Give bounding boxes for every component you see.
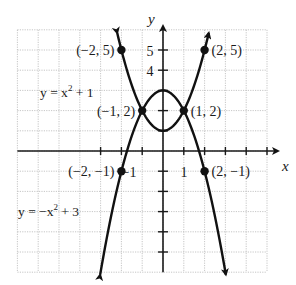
point-marker: [138, 106, 146, 114]
point-label: (2, −1): [212, 164, 251, 180]
point-label: (−2, −1): [68, 164, 114, 180]
y-tick-label-4: 4: [147, 64, 154, 79]
y-tick-label-5: 5: [147, 44, 154, 59]
equation-label-upward: y = x2 + 1: [40, 83, 94, 100]
point-marker: [117, 167, 125, 175]
x-axis-label: x: [281, 158, 289, 174]
point-label: (1, 2): [191, 104, 222, 120]
equation-label-downward: y = −x2 + 3: [18, 202, 79, 219]
labeled-points: (−2, 5)(2, 5)(−1, 2)(1, 2)(−2, −1)(2, −1…: [68, 43, 250, 180]
graph-figure: x y −1 1 5 4 y = x2 + 1 y = −x2 + 3 (−2,…: [0, 0, 296, 285]
point-marker: [117, 46, 125, 54]
x-tick-label-1: 1: [181, 165, 188, 180]
point-label: (2, 5): [212, 43, 243, 59]
point-label: (−1, 2): [97, 104, 136, 120]
point-marker: [200, 46, 208, 54]
point-marker: [180, 106, 188, 114]
coordinate-plane: x y −1 1 5 4 y = x2 + 1 y = −x2 + 3 (−2,…: [0, 0, 296, 285]
point-marker: [200, 167, 208, 175]
y-axis-label: y: [146, 11, 155, 27]
point-label: (−2, 5): [76, 43, 115, 59]
